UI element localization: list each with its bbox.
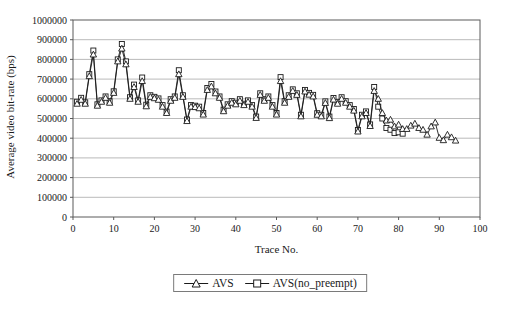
x-tick-label: 10 (109, 223, 119, 234)
x-tick-label: 100 (473, 223, 488, 234)
y-tick-label: 600000 (37, 93, 67, 104)
square-marker-icon (244, 278, 270, 289)
triangle-marker (444, 131, 450, 137)
y-tick-label: 200000 (37, 172, 67, 183)
y-axis-title: Average video bit-rate (bps) (4, 7, 16, 227)
y-tick-label: 300000 (37, 152, 67, 163)
chart-figure: 0100000200000300000400000500000600000700… (0, 0, 507, 312)
y-tick-label: 900000 (37, 34, 67, 45)
y-tick-label: 100000 (37, 192, 67, 203)
x-axis-title: Trace No. (73, 243, 480, 255)
square-marker (400, 131, 405, 136)
x-tick-label: 90 (434, 223, 444, 234)
x-tick-label: 70 (353, 223, 363, 234)
y-tick-label: 400000 (37, 133, 67, 144)
series-line-avs-no-preempt- (77, 44, 403, 134)
y-tick-label: 500000 (37, 113, 67, 124)
triangle-marker-icon (183, 278, 209, 289)
legend-label-avs: AVS (212, 277, 234, 289)
x-tick-label: 60 (312, 223, 322, 234)
x-tick-label: 40 (231, 223, 241, 234)
triangle-marker (395, 121, 401, 127)
x-tick-label: 20 (149, 223, 159, 234)
y-tick-label: 800000 (37, 54, 67, 65)
legend-item-avs-no-preempt: AVS(no_preempt) (244, 277, 357, 289)
chart-canvas: 0100000200000300000400000500000600000700… (0, 0, 507, 312)
y-tick-label: 700000 (37, 74, 67, 85)
legend-item-avs: AVS (183, 277, 234, 289)
triangle-marker (412, 120, 418, 126)
legend-label-avs-no-preempt: AVS(no_preempt) (273, 277, 357, 289)
x-tick-label: 80 (394, 223, 404, 234)
y-tick-label: 0 (62, 212, 67, 223)
legend: AVS AVS(no_preempt) (173, 274, 367, 292)
x-tick-label: 30 (190, 223, 200, 234)
triangle-marker (432, 119, 438, 125)
x-tick-label: 0 (71, 223, 76, 234)
x-tick-label: 50 (272, 223, 282, 234)
triangle-marker (387, 116, 393, 122)
y-tick-label: 1000000 (32, 15, 67, 26)
